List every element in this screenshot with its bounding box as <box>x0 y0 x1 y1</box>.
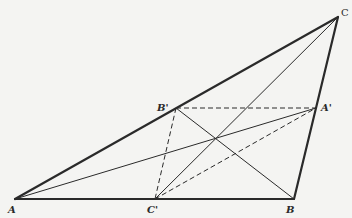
label-c-prime: C' <box>147 204 158 215</box>
label-a-prime: A' <box>320 102 332 113</box>
label-b-prime: B' <box>156 102 169 113</box>
medial-triangle <box>155 108 316 199</box>
label-c: C <box>341 7 349 18</box>
median-triangle-diagram: A B C A' B' C' <box>0 0 352 218</box>
label-b: B <box>285 204 294 215</box>
side-cprime-aprime <box>155 108 316 199</box>
median-a-aprime <box>15 108 316 199</box>
label-a: A <box>7 204 16 215</box>
median-c-cprime <box>155 17 338 199</box>
